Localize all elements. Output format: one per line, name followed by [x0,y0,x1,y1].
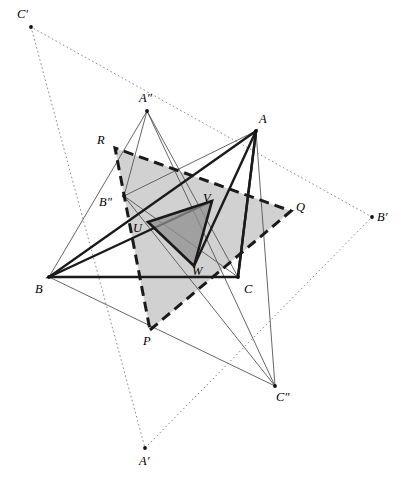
point-label-cp: C′ [17,8,28,21]
vertex-dot-app [145,109,149,113]
triangle-PQR [115,148,291,330]
point-label-bpp: B″ [99,196,112,209]
point-label-w: W [192,265,202,278]
point-label-v: V [203,192,211,205]
point-label-u: U [133,222,142,235]
vertex-dot-bp [370,215,374,219]
vertex-dot-ap [143,446,147,450]
vertex-dot-bpp [122,194,126,198]
point-label-r: R [97,134,105,147]
point-label-app: A″ [139,92,152,105]
geometry-figure: ABCA′B′C′A″B″C″PQRUVW [0,0,401,482]
point-label-a: A [259,113,267,126]
geometry-canvas [0,0,401,482]
vertex-dot-cpp [273,384,277,388]
point-label-cpp: C″ [276,391,290,404]
vertex-dot-a [254,129,258,133]
point-label-ap: A′ [139,455,149,468]
point-label-b: B [35,283,43,296]
point-label-c: C [244,283,252,296]
vertex-dot-b [47,275,51,279]
point-label-p: P [143,335,151,348]
segment-Cpp-A [256,131,275,386]
vertex-dot-cp [29,25,33,29]
vertex-dot-c [236,275,240,279]
point-label-q: Q [296,201,305,214]
point-label-bp: B′ [377,211,387,224]
